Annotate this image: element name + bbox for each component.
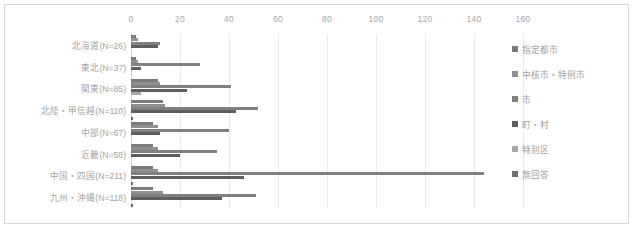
category-axis-labels: 北海道(N=26)東北(N=37)関東(N=85)北陸・甲信越(N=110)中部… bbox=[0, 34, 126, 208]
bar-町・村 bbox=[131, 67, 141, 70]
bar-町・村 bbox=[131, 45, 158, 48]
bar-group bbox=[131, 56, 523, 78]
bar-group bbox=[131, 165, 523, 187]
legend-item-label: 無回答 bbox=[522, 168, 549, 180]
x-tick-label-140: 140 bbox=[467, 14, 482, 24]
legend-item[interactable]: 特別区 bbox=[512, 136, 624, 161]
legend-swatch-icon bbox=[512, 71, 518, 77]
x-tick-label-160: 160 bbox=[516, 14, 531, 24]
legend-swatch-icon bbox=[512, 121, 518, 127]
legend-item[interactable]: 無回答 bbox=[512, 161, 624, 186]
x-tick-label-60: 60 bbox=[273, 14, 283, 24]
category-label: 近畿(N=58) bbox=[81, 148, 126, 160]
legend-swatch-icon bbox=[512, 96, 518, 102]
bar-group bbox=[131, 34, 523, 56]
legend-item-label: 中核市・特例市 bbox=[522, 68, 585, 80]
category-label: 北陸・甲信越(N=110) bbox=[41, 104, 126, 116]
bar-無回答 bbox=[131, 182, 133, 185]
bar-無回答 bbox=[131, 204, 133, 207]
legend-item[interactable]: 町・村 bbox=[512, 111, 624, 136]
legend-item[interactable]: 中核市・特例市 bbox=[512, 61, 624, 86]
legend-item-label: 町・村 bbox=[522, 118, 549, 130]
bar-特別区 bbox=[131, 92, 141, 95]
bar-町・村 bbox=[131, 176, 244, 179]
x-tick-label-0: 0 bbox=[129, 14, 134, 24]
bar-町・村 bbox=[131, 110, 236, 113]
bar-group bbox=[131, 78, 523, 100]
chart-legend: 指定都市中核市・特例市市町・村特別区無回答 bbox=[512, 36, 624, 186]
category-label: 中国・四国(N=211) bbox=[50, 169, 126, 181]
category-label: 東北(N=37) bbox=[81, 61, 126, 73]
bar-町・村 bbox=[131, 154, 180, 157]
legend-swatch-icon bbox=[512, 171, 518, 177]
bar-group bbox=[131, 143, 523, 165]
legend-item-label: 指定都市 bbox=[522, 43, 558, 55]
category-label: 北海道(N=26) bbox=[72, 39, 126, 51]
bar-無回答 bbox=[131, 117, 133, 120]
x-tick-label-80: 80 bbox=[322, 14, 332, 24]
legend-swatch-icon bbox=[512, 46, 518, 52]
x-tick-label-40: 40 bbox=[224, 14, 234, 24]
bar-町・村 bbox=[131, 197, 222, 200]
legend-item[interactable]: 市 bbox=[512, 86, 624, 111]
bar-chart: 020406080100120140160 北海道(N=26)東北(N=37)関… bbox=[0, 0, 634, 229]
plot-area bbox=[131, 34, 523, 208]
x-tick-label-20: 20 bbox=[175, 14, 185, 24]
x-tick-label-120: 120 bbox=[418, 14, 433, 24]
category-label: 関東(N=85) bbox=[81, 82, 126, 94]
bar-市 bbox=[131, 63, 200, 66]
category-label: 中部(N=67) bbox=[81, 126, 126, 138]
bar-group bbox=[131, 121, 523, 143]
category-label: 九州・沖縄(N=118) bbox=[50, 191, 126, 203]
bar-group bbox=[131, 99, 523, 121]
bar-group bbox=[131, 186, 523, 208]
legend-swatch-icon bbox=[512, 146, 518, 152]
legend-item-label: 特別区 bbox=[522, 143, 549, 155]
x-tick-label-100: 100 bbox=[369, 14, 384, 24]
legend-item[interactable]: 指定都市 bbox=[512, 36, 624, 61]
legend-item-label: 市 bbox=[522, 93, 531, 105]
bar-町・村 bbox=[131, 132, 160, 135]
